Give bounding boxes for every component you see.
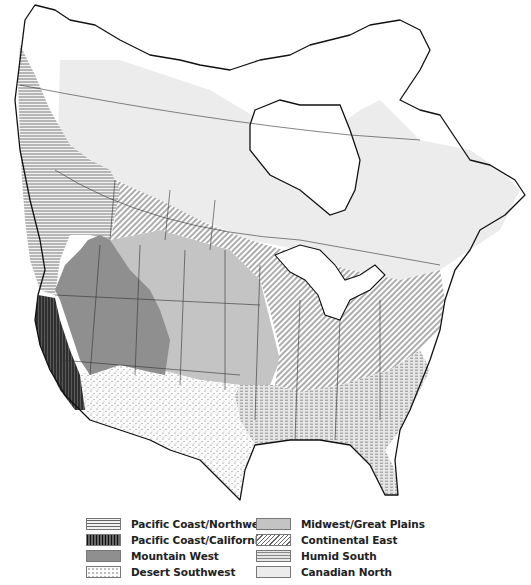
- legend-label: Humid South: [301, 550, 377, 562]
- swatch-dashed-lines-icon: [256, 550, 291, 562]
- legend-item-continental-east: Continental East: [256, 532, 425, 548]
- legend-item-desert-southwest: Desert Southwest: [86, 564, 270, 580]
- legend-label: Continental East: [301, 534, 397, 546]
- legend-label: Midwest/Great Plains: [301, 518, 425, 530]
- swatch-solid-medium-grey-icon: [256, 518, 291, 530]
- map-legend: Pacific Coast/Northwest Pacific Coast/Ca…: [86, 516, 446, 580]
- legend-label: Mountain West: [131, 550, 219, 562]
- legend-item-mountain-west: Mountain West: [86, 548, 270, 564]
- swatch-diagonal-lines-icon: [256, 534, 291, 546]
- legend-item-pacific-california: Pacific Coast/California: [86, 532, 270, 548]
- legend-label: Pacific Coast/Northwest: [131, 518, 270, 530]
- legend-label: Desert Southwest: [131, 566, 235, 578]
- legend-item-midwest-great-plains: Midwest/Great Plains: [256, 516, 425, 532]
- north-america-region-map: [0, 0, 531, 505]
- swatch-solid-light-grey-icon: [256, 566, 291, 578]
- legend-item-canadian-north: Canadian North: [256, 564, 425, 580]
- swatch-vertical-lines-icon: [86, 534, 121, 546]
- legend-label: Canadian North: [301, 566, 392, 578]
- swatch-horizontal-lines-icon: [86, 518, 121, 530]
- legend-column-right: Midwest/Great Plains Continental East Hu…: [256, 516, 425, 580]
- swatch-dots-icon: [86, 566, 121, 578]
- legend-label: Pacific Coast/California: [131, 534, 265, 546]
- legend-item-pacific-northwest: Pacific Coast/Northwest: [86, 516, 270, 532]
- legend-item-humid-south: Humid South: [256, 548, 425, 564]
- swatch-solid-dark-grey-icon: [86, 550, 121, 562]
- region-desert-southwest: [75, 365, 255, 500]
- legend-column-left: Pacific Coast/Northwest Pacific Coast/Ca…: [86, 516, 270, 580]
